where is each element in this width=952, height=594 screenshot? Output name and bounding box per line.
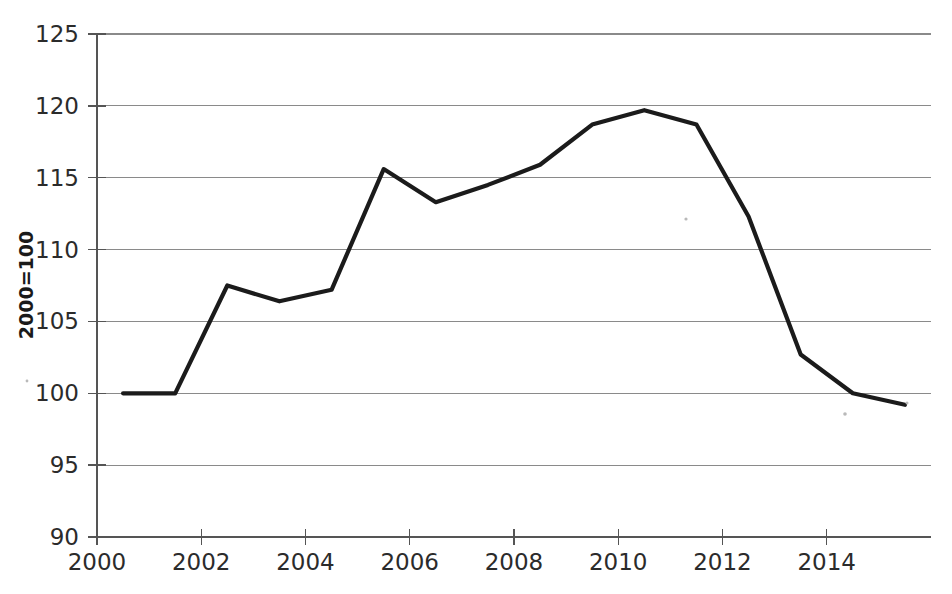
- y-axis-title: 2000=100: [15, 231, 37, 339]
- x-tick-label: 2010: [589, 549, 648, 575]
- x-tick-label: 2008: [485, 549, 544, 575]
- x-tick-label: 2006: [380, 549, 439, 575]
- y-tick-label: 115: [35, 165, 79, 191]
- y-tick-label: 90: [50, 524, 79, 550]
- y-tick-label: 120: [35, 93, 79, 119]
- x-tick-label: 2000: [68, 549, 127, 575]
- chart-figure: 9095100105110115120125 20002002200420062…: [0, 0, 952, 594]
- y-tick-label: 110: [35, 237, 79, 263]
- x-tick-label: 2012: [693, 549, 752, 575]
- x-tick-label: 2002: [172, 549, 231, 575]
- chart-background: [0, 0, 952, 594]
- line-chart: 9095100105110115120125 20002002200420062…: [0, 0, 952, 594]
- y-tick-label: 100: [35, 380, 79, 406]
- y-tick-label: 105: [35, 308, 79, 334]
- x-tick-label: 2004: [276, 549, 335, 575]
- y-tick-label: 95: [50, 452, 79, 478]
- y-tick-label: 125: [35, 21, 79, 47]
- x-tick-label: 2014: [797, 549, 856, 575]
